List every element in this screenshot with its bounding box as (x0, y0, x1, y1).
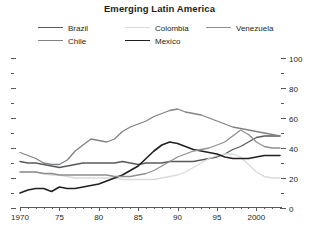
y-axis-right: 020406080100 (281, 52, 319, 214)
y-tick-left-60 (11, 118, 16, 119)
x-tick-1989 (170, 207, 171, 209)
x-tick-label-1975: 75 (55, 213, 64, 222)
series-line-chile (20, 109, 280, 165)
y-tick-left-80 (11, 88, 16, 89)
plot-area (20, 58, 280, 208)
y-tick-80: 80 (281, 84, 298, 93)
series-line-venezuela (20, 130, 280, 177)
y-tick-100: 100 (281, 54, 302, 63)
legend-label-venezuela: Venezuela (236, 23, 273, 34)
x-tick-1986 (146, 207, 147, 209)
x-tick-1992 (193, 207, 194, 209)
x-tick-1991 (185, 207, 186, 209)
x-tick-1988 (162, 207, 163, 209)
x-tick-1996 (225, 207, 226, 209)
x-tick-1972 (36, 207, 37, 209)
y-tick-left-minor-70 (11, 103, 14, 104)
x-tick-label-1980: 80 (94, 213, 103, 222)
x-tick-1975 (59, 207, 60, 211)
y-tick-left-0 (11, 208, 16, 209)
legend-label-chile: Chile (68, 36, 86, 47)
y-tick-60: 60 (281, 114, 298, 123)
y-tick-mark (281, 163, 284, 164)
y-tick-left-40 (11, 148, 16, 149)
legend-swatch-brazil (38, 27, 63, 28)
x-tick-1995 (217, 207, 218, 211)
x-tick-1982 (115, 207, 116, 209)
y-tick-20: 20 (281, 174, 298, 183)
page-title: Emerging Latin America (0, 3, 319, 14)
legend-label-colombia: Colombia (155, 23, 189, 34)
chart-figure: Emerging Latin America Brazil Chile Colo… (0, 0, 319, 239)
x-tick-2001 (264, 207, 265, 209)
y-tick-label: 20 (289, 175, 298, 184)
y-tick-mark (281, 118, 286, 119)
series-line-brazil (20, 136, 280, 168)
y-tick-0: 0 (281, 204, 293, 213)
y-tick-mark (281, 178, 286, 179)
y-tick-mark (281, 193, 284, 194)
y-tick-mark (281, 133, 284, 134)
y-tick-minor-70 (281, 99, 287, 108)
x-tick-1980 (99, 207, 100, 211)
x-tick-label-1995: 95 (213, 213, 222, 222)
y-tick-left-minor-50 (11, 133, 14, 134)
legend-item-colombia[interactable]: Colombia (125, 22, 189, 33)
x-tick-1977 (75, 207, 76, 209)
y-tick-mark (281, 88, 286, 89)
x-axis: 197075808590952000 (20, 207, 282, 237)
legend-swatch-colombia (125, 27, 150, 28)
y-tick-minor-90 (281, 69, 287, 78)
x-tick-label-1990: 90 (173, 213, 182, 222)
legend-swatch-chile (38, 40, 63, 41)
y-tick-minor-30 (281, 159, 287, 168)
x-tick-1971 (28, 207, 29, 209)
x-tick-1987 (154, 207, 155, 209)
legend-item-chile[interactable]: Chile (38, 35, 86, 46)
x-tick-1970 (20, 207, 21, 211)
y-tick-left-100 (11, 58, 16, 59)
legend-label-mexico: Mexico (155, 36, 180, 47)
x-tick-label-1970: 1970 (11, 213, 29, 222)
y-tick-label: 60 (289, 115, 298, 124)
y-tick-left-20 (11, 178, 16, 179)
x-tick-1999 (248, 207, 249, 209)
y-tick-minor-10 (281, 189, 287, 198)
x-tick-2002 (272, 207, 273, 209)
x-tick-1983 (122, 207, 123, 209)
legend-item-mexico[interactable]: Mexico (125, 35, 180, 46)
x-tick-1998 (241, 207, 242, 209)
y-tick-40: 40 (281, 144, 298, 153)
y-tick-minor-50 (281, 129, 287, 138)
y-tick-mark (281, 103, 284, 104)
legend-item-venezuela[interactable]: Venezuela (206, 22, 273, 33)
x-tick-1976 (67, 207, 68, 209)
x-tick-1973 (44, 207, 45, 209)
y-tick-mark (281, 73, 284, 74)
x-tick-1978 (83, 207, 84, 209)
y-tick-left-minor-90 (11, 73, 14, 74)
y-tick-mark (281, 58, 286, 59)
x-tick-label-1985: 85 (134, 213, 143, 222)
legend-label-brazil: Brazil (68, 23, 88, 34)
x-tick-1997 (233, 207, 234, 209)
legend-swatch-venezuela (206, 27, 231, 28)
series-canvas (20, 58, 280, 208)
x-tick-1990 (178, 207, 179, 211)
y-axis-left-ticks (11, 52, 21, 214)
y-tick-left-minor-30 (11, 163, 14, 164)
x-tick-1981 (107, 207, 108, 209)
chart-legend: Brazil Chile Colombia Mexico Venezuela (38, 22, 283, 46)
x-tick-1994 (209, 207, 210, 209)
y-tick-label: 100 (289, 55, 302, 64)
x-tick-1974 (52, 207, 53, 209)
x-tick-1984 (130, 207, 131, 209)
y-tick-label: 40 (289, 145, 298, 154)
x-tick-2003 (280, 207, 281, 209)
legend-item-brazil[interactable]: Brazil (38, 22, 88, 33)
x-tick-1979 (91, 207, 92, 209)
y-tick-mark (281, 148, 286, 149)
legend-swatch-mexico (125, 40, 150, 41)
y-tick-label: 0 (289, 205, 293, 214)
x-tick-label-2000: 2000 (247, 213, 265, 222)
